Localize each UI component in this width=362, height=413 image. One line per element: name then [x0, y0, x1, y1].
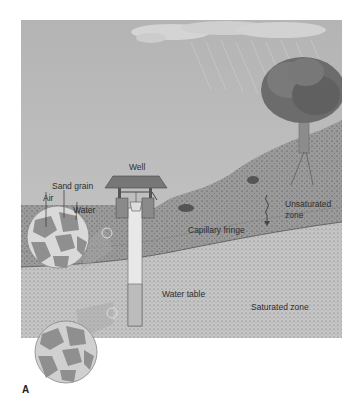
label-saturated-zone: Saturated zone: [251, 303, 309, 312]
label-sand-grain: Sand grain: [52, 182, 93, 191]
label-unsaturated-zone-2: zone: [285, 211, 303, 220]
label-water: Water: [73, 206, 95, 215]
label-air: Air: [43, 194, 53, 203]
label-capillary-fringe: Capillary fringe: [188, 226, 245, 235]
groundwater-diagram-panel: Well Sand grain Air Water Unsaturated zo…: [21, 20, 342, 338]
label-unsaturated-zone-1: Unsaturated: [285, 200, 331, 209]
label-well: Well: [129, 163, 145, 172]
figure-letter: A: [22, 384, 29, 395]
label-water-table: Water table: [162, 290, 205, 299]
